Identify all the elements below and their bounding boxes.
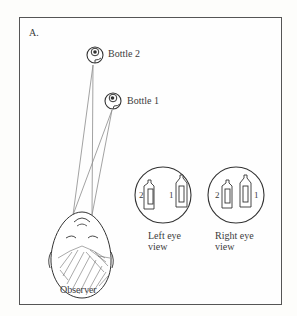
panel-label: A. [29,27,39,38]
left-view-number-2: 2 [139,190,144,201]
left-eye-view-label-line2: view [148,241,167,252]
right-view-number-2: 2 [215,190,220,201]
right-eye-view-label-line1: Right eye [215,230,254,241]
right-eye-view-label-line2: view [215,241,234,252]
observer-label: Observer [60,284,97,295]
binocular-disparity-diagram [0,0,297,316]
bottle-1-label: Bottle 1 [127,95,159,106]
bottle-2-side-icon [144,180,154,209]
bottle-2-top-view-icon [87,47,103,63]
right-view-number-1: 1 [254,190,259,201]
bottle-1-top-view-icon [105,93,121,109]
left-eye-view-label-line1: Left eye [148,230,181,241]
left-view-number-1: 1 [169,190,174,201]
bottle-2-label: Bottle 2 [108,48,140,59]
